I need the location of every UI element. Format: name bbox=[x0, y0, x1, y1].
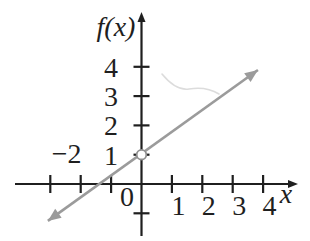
y-tick-label-2: 2 bbox=[104, 110, 118, 141]
function-line-arrowhead-lower bbox=[48, 209, 62, 221]
x-tick-label-1: 1 bbox=[171, 190, 185, 221]
scan-artifact bbox=[162, 74, 219, 94]
y-axis-label: f(x) bbox=[97, 11, 136, 42]
x-tick-label-2: 2 bbox=[202, 190, 216, 221]
x-tick-label-3: 3 bbox=[232, 190, 246, 221]
function-graph-figure: 1234−212340xf(x) bbox=[0, 0, 310, 241]
x-axis-label: x bbox=[279, 178, 293, 209]
y-axis-arrowhead bbox=[138, 12, 146, 22]
x-tick-label-neg-2: −2 bbox=[52, 138, 82, 169]
y-intercept-open-circle bbox=[137, 150, 147, 160]
x-tick-label-4: 4 bbox=[263, 190, 277, 221]
y-tick-label-1: 1 bbox=[104, 140, 118, 171]
origin-label: 0 bbox=[120, 181, 134, 212]
function-line-arrowhead-upper bbox=[244, 70, 258, 82]
function-graph: 1234−212340xf(x) bbox=[0, 0, 310, 241]
y-tick-label-3: 3 bbox=[104, 81, 118, 112]
y-tick-label-4: 4 bbox=[104, 52, 118, 83]
